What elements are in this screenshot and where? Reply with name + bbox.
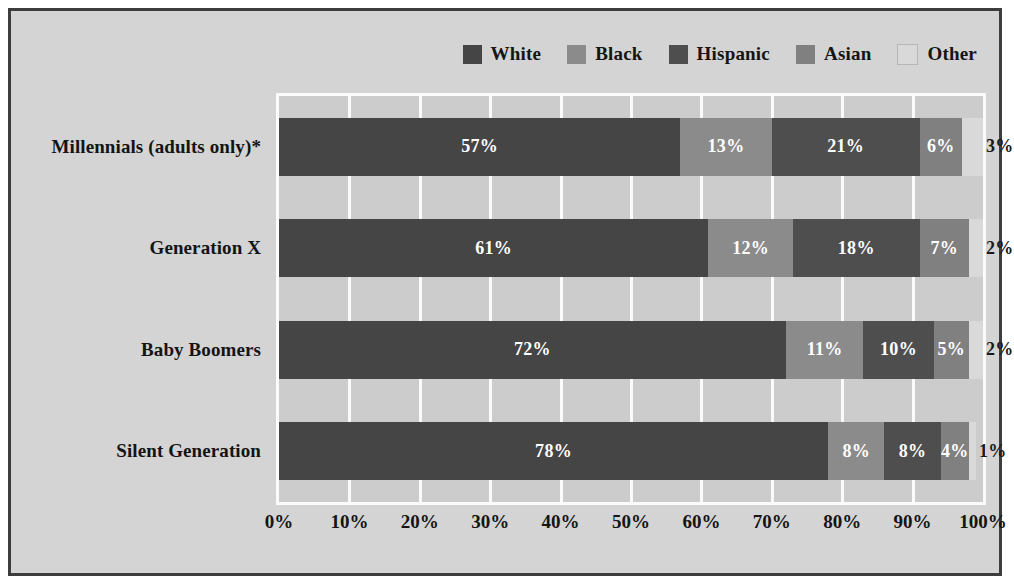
x-axis-tick-label: 0% (265, 511, 294, 533)
bars-layer: 57%13%21%6%3%61%12%18%7%2%72%11%10%5%2%7… (279, 96, 983, 502)
bar-segment: 21% (772, 118, 920, 176)
x-axis-tick-label: 30% (471, 511, 509, 533)
bar-segment: 61% (279, 219, 708, 277)
chart-legend: WhiteBlackHispanicAsianOther (11, 43, 999, 65)
legend-swatch-icon (796, 45, 815, 64)
legend-swatch-icon (567, 45, 586, 64)
bar-segment: 13% (680, 118, 772, 176)
bar-segment-value-label: 72% (514, 339, 551, 360)
bar-row: 57%13%21%6%3% (279, 118, 983, 176)
bar-segment: 2% (969, 321, 983, 379)
category-label: Baby Boomers (141, 321, 261, 379)
x-axis-tick-label: 90% (894, 511, 932, 533)
bar-segment-value-label: 2% (986, 339, 1014, 360)
bar-segment: 12% (708, 219, 792, 277)
x-axis-tick-label: 100% (959, 511, 1007, 533)
x-axis-tick-label: 60% (682, 511, 720, 533)
bar-segment-value-label: 10% (880, 339, 917, 360)
bar-segment: 72% (279, 321, 786, 379)
legend-swatch-icon (669, 45, 688, 64)
y-axis-category-labels: Millennials (adults only)*Generation XBa… (11, 93, 269, 505)
bar-segment: 78% (279, 422, 828, 480)
bar-segment: 6% (920, 118, 962, 176)
legend-item: White (463, 43, 542, 65)
bar-segment: 8% (828, 422, 884, 480)
bar-segment-value-label: 7% (930, 238, 958, 259)
category-label: Millennials (adults only)* (51, 118, 261, 176)
legend-item: Black (567, 43, 642, 65)
legend-swatch-icon (897, 44, 918, 65)
category-label: Generation X (150, 219, 262, 277)
x-axis-tick-label: 70% (753, 511, 791, 533)
bar-segment-value-label: 13% (708, 136, 745, 157)
legend-swatch-icon (463, 45, 482, 64)
bar-segment: 4% (941, 422, 969, 480)
bar-segment-value-label: 4% (941, 441, 969, 462)
x-axis-tick-label: 50% (612, 511, 650, 533)
legend-item-label: White (491, 43, 542, 65)
bar-segment-value-label: 11% (807, 339, 843, 360)
bar-segment: 2% (969, 219, 983, 277)
bar-segment: 8% (884, 422, 940, 480)
bar-segment-value-label: 78% (535, 441, 572, 462)
bar-segment-value-label: 21% (827, 136, 864, 157)
bar-segment-value-label: 5% (937, 339, 965, 360)
bar-segment-value-label: 57% (461, 136, 498, 157)
bar-segment: 5% (934, 321, 969, 379)
bar-segment: 10% (863, 321, 933, 379)
legend-item-label: Asian (824, 43, 871, 65)
bar-segment: 7% (920, 219, 969, 277)
bar-segment-value-label: 61% (475, 238, 512, 259)
legend-item: Asian (796, 43, 871, 65)
bar-row: 72%11%10%5%2% (279, 321, 983, 379)
legend-item-label: Other (927, 43, 977, 65)
bar-row: 61%12%18%7%2% (279, 219, 983, 277)
bar-row: 78%8%8%4%1% (279, 422, 983, 480)
x-axis-tick-labels: 0%10%20%30%40%50%60%70%80%90%100% (276, 511, 986, 545)
bar-segment-value-label: 8% (899, 441, 927, 462)
x-axis-tick-label: 80% (823, 511, 861, 533)
plot-area: 57%13%21%6%3%61%12%18%7%2%72%11%10%5%2%7… (276, 93, 986, 505)
category-label: Silent Generation (116, 422, 261, 480)
legend-item: Other (897, 43, 977, 65)
x-axis-tick-label: 10% (330, 511, 368, 533)
x-axis-tick-label: 40% (542, 511, 580, 533)
chart-figure: WhiteBlackHispanicAsianOther Millennials… (8, 8, 1002, 576)
legend-item: Hispanic (669, 43, 770, 65)
bar-segment-value-label: 12% (732, 238, 769, 259)
x-axis-tick-label: 20% (401, 511, 439, 533)
bar-segment-value-label: 3% (986, 136, 1014, 157)
bar-segment-value-label: 6% (927, 136, 955, 157)
bar-segment-value-label: 8% (842, 441, 870, 462)
bar-segment: 57% (279, 118, 680, 176)
bar-segment: 18% (793, 219, 920, 277)
bar-segment-value-label: 18% (838, 238, 875, 259)
bar-segment: 3% (962, 118, 983, 176)
bar-segment: 1% (969, 422, 976, 480)
legend-item-label: Hispanic (697, 43, 770, 65)
bar-segment-value-label: 2% (986, 238, 1014, 259)
legend-item-label: Black (595, 43, 642, 65)
bar-segment: 11% (786, 321, 863, 379)
bar-segment-value-label: 1% (979, 441, 1007, 462)
